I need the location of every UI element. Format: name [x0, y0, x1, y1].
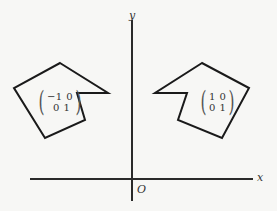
x-axis-label: x	[257, 172, 263, 183]
origin-label: O	[137, 184, 146, 195]
right-paren: )	[229, 88, 235, 116]
matrix-row-1: −1 0	[47, 91, 73, 102]
matrix-row-1: 1 0	[209, 91, 226, 102]
y-axis-label: y	[129, 10, 135, 21]
left-paren: (	[38, 88, 44, 116]
reflection-matrix: ( −1 0 0 1 )	[36, 88, 84, 116]
matrix-row-2: 0 1	[209, 102, 226, 113]
identity-matrix: ( 1 0 0 1 )	[198, 88, 237, 116]
right-paren: )	[76, 88, 82, 116]
left-paren: (	[200, 88, 206, 116]
matrix-row-2: 0 1	[47, 102, 73, 113]
